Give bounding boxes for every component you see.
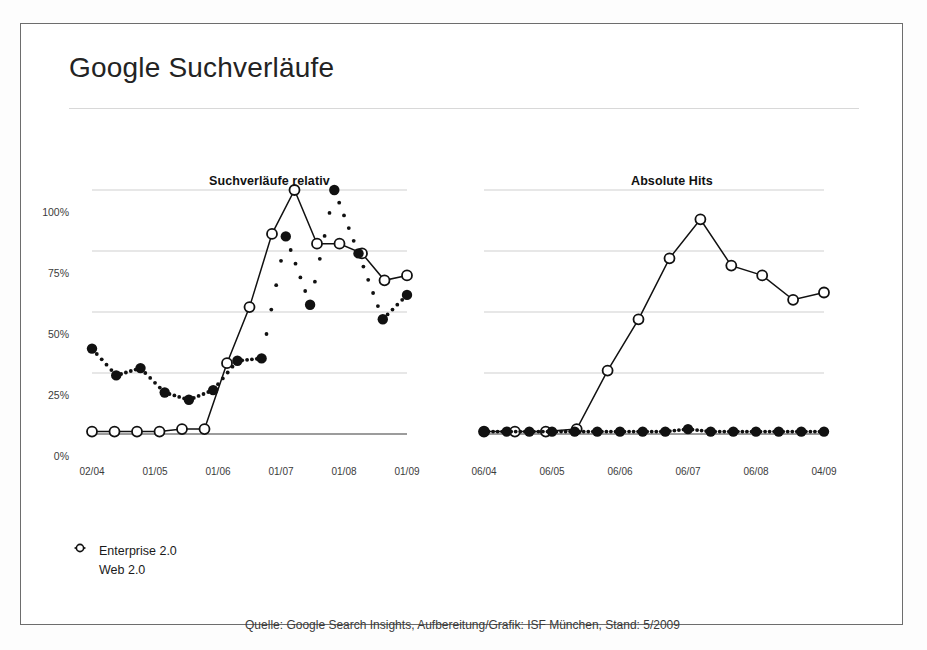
source-note: Quelle: Google Search Insights, Aufberei… [21, 618, 904, 632]
legend-label-enterprise: Enterprise 2.0 [99, 542, 177, 561]
data-point-left-enterprise-4 [184, 395, 194, 405]
series-dot-left-7-1 [265, 332, 269, 336]
series-dot-right-1-2 [514, 430, 518, 434]
series-dot-right-7-2 [650, 430, 654, 434]
series-dot-left-0-3 [105, 363, 109, 367]
data-point-right-enterprise-0 [479, 426, 489, 436]
data-point-left-web-1 [110, 427, 120, 437]
series-dot-left-6-2 [245, 358, 249, 362]
series-dot-left-11-1 [362, 265, 366, 269]
charts-canvas [21, 24, 904, 626]
series-dot-right-13-3 [790, 430, 794, 434]
data-point-right-web-6 [665, 253, 675, 263]
data-point-right-enterprise-3 [547, 426, 557, 436]
data-point-left-web-0 [87, 427, 97, 437]
data-point-right-enterprise-7 [638, 426, 648, 436]
series-dot-right-7-3 [654, 430, 658, 434]
data-point-right-enterprise-8 [660, 426, 670, 436]
slide-frame: Google Suchverläufe Suchverläufe relativ… [20, 23, 903, 625]
data-point-left-enterprise-5 [208, 385, 218, 395]
data-point-right-enterprise-4 [570, 426, 580, 436]
series-dot-left-2-3 [153, 381, 157, 385]
series-dot-right-6-3 [632, 430, 636, 434]
series-dot-left-0-2 [100, 357, 104, 361]
series-dot-right-14-2 [809, 430, 813, 434]
data-point-left-web-13 [380, 275, 390, 285]
series-dot-left-5-2 [221, 377, 225, 381]
series-dot-left-0-4 [110, 368, 114, 372]
series-dot-left-11-2 [366, 278, 370, 282]
series-dot-right-8-3 [677, 428, 681, 432]
data-point-right-web-8 [726, 261, 736, 271]
series-dot-right-4-3 [586, 430, 590, 434]
series-dot-left-8-4 [303, 289, 307, 293]
series-dot-right-3-2 [559, 430, 563, 434]
series-dot-left-9-1 [313, 280, 317, 284]
data-point-right-enterprise-15 [819, 426, 829, 436]
series-dot-right-12-3 [768, 430, 772, 434]
series-dot-left-4-3 [202, 392, 206, 396]
series-dot-right-10-2 [718, 430, 722, 434]
data-point-right-enterprise-13 [774, 426, 784, 436]
data-point-left-web-6 [222, 358, 232, 368]
series-dot-right-12-2 [763, 430, 767, 434]
series-dot-left-12-2 [391, 308, 395, 312]
series-dot-left-2-2 [148, 376, 152, 380]
series-dot-left-5-1 [216, 382, 220, 386]
data-point-left-enterprise-3 [160, 387, 170, 397]
data-point-left-enterprise-0 [87, 343, 97, 353]
data-point-right-enterprise-6 [615, 426, 625, 436]
series-dot-left-11-3 [371, 291, 375, 295]
series-dot-left-5-4 [231, 365, 235, 369]
series-dot-left-9-3 [323, 234, 327, 238]
data-point-right-web-4 [603, 366, 613, 376]
series-dot-left-7-4 [279, 259, 283, 263]
series-dot-left-0-1 [95, 352, 99, 356]
series-dot-right-9-2 [695, 428, 699, 432]
series-dot-right-11-2 [741, 430, 745, 434]
data-point-left-web-2 [132, 427, 142, 437]
series-dot-left-7-3 [274, 283, 278, 287]
legend-item-enterprise: Enterprise 2.0 [73, 542, 177, 561]
data-point-left-enterprise-11 [353, 248, 363, 258]
data-point-left-enterprise-10 [329, 185, 339, 195]
data-point-left-web-8 [267, 229, 277, 239]
legend-label-web: Web 2.0 [99, 561, 145, 580]
data-point-left-enterprise-1 [111, 370, 121, 380]
series-dot-left-8-2 [294, 262, 298, 266]
data-point-right-web-11 [819, 288, 829, 298]
series-dot-left-4-2 [197, 394, 201, 398]
data-point-left-web-7 [245, 302, 255, 312]
data-point-right-web-7 [695, 214, 705, 224]
data-point-left-enterprise-12 [378, 314, 388, 324]
series-dot-right-1-3 [518, 430, 522, 434]
series-dot-left-1-2 [124, 371, 128, 375]
series-dot-left-1-3 [129, 369, 133, 373]
data-point-left-enterprise-7 [256, 353, 266, 363]
data-point-right-web-9 [757, 270, 767, 280]
series-dot-right-13-2 [786, 430, 790, 434]
series-dot-right-5-2 [605, 430, 609, 434]
data-point-left-web-9 [290, 185, 300, 195]
series-dot-right-3-3 [564, 430, 568, 434]
data-point-left-web-14 [402, 270, 412, 280]
data-point-right-web-10 [788, 295, 798, 305]
series-dot-left-3-2 [173, 394, 177, 398]
data-point-left-web-4 [177, 424, 187, 434]
data-point-right-enterprise-11 [728, 426, 738, 436]
series-dot-right-2-3 [541, 430, 545, 434]
series-dot-right-0-3 [496, 430, 500, 434]
series-dot-left-10-4 [352, 239, 356, 243]
series-dot-left-8-1 [289, 248, 293, 252]
series-dot-left-9-2 [318, 257, 322, 261]
data-point-left-enterprise-13 [402, 290, 412, 300]
series-dot-right-5-3 [609, 430, 613, 434]
data-point-left-enterprise-8 [281, 231, 291, 241]
series-dot-left-3-3 [177, 395, 181, 399]
series-dot-right-8-2 [673, 429, 677, 433]
data-point-left-web-3 [155, 427, 165, 437]
chart-legend: Enterprise 2.0 Web 2.0 [73, 542, 177, 580]
series-dot-left-8-3 [299, 276, 303, 280]
series-dot-right-11-3 [745, 430, 749, 434]
series-dot-right-9-3 [700, 429, 704, 433]
